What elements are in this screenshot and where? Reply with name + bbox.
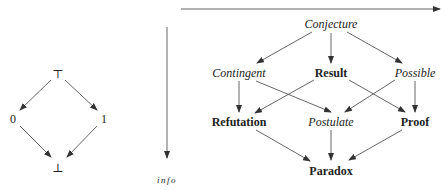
node-conjecture: Conjecture [305, 18, 358, 30]
node-postulate: Postulate [308, 116, 353, 128]
node-refutation: Refutation [212, 116, 267, 128]
info-axis-label: info [157, 176, 177, 185]
node-one: 1 [101, 113, 107, 125]
node-contingent: Contingent [212, 67, 265, 79]
node-paradox: Paradox [309, 165, 352, 177]
diagram-edges [0, 0, 444, 190]
node-possible: Possible [395, 67, 436, 79]
node-bottom: ⊥ [52, 162, 63, 174]
node-result: Result [315, 67, 348, 79]
node-zero: 0 [10, 113, 16, 125]
lattice-diagram: ⊤ 0 1 ⊥ info Conjecture Contingent Resul… [0, 0, 444, 190]
node-proof: Proof [401, 116, 429, 128]
node-top: ⊤ [52, 68, 63, 80]
